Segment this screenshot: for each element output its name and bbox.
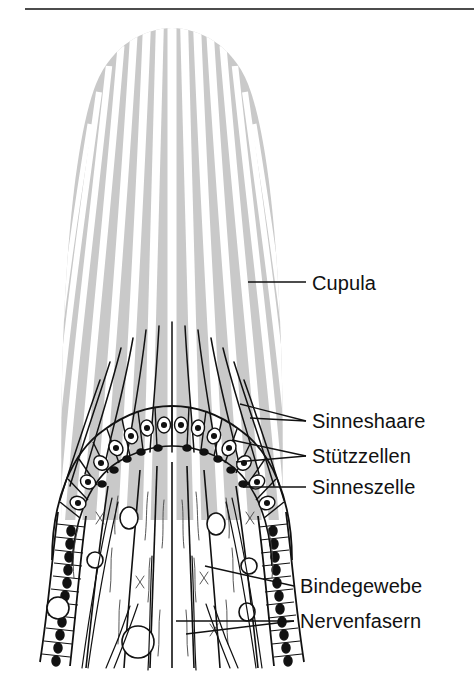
neuromast-diagram: Cupula Sinneshaare Stützzellen Sinneszel… (0, 0, 474, 694)
label-sinneszelle: Sinneszelle (312, 476, 415, 498)
label-nervenfasern: Nervenfasern (300, 610, 421, 632)
label-bindegewebe: Bindegewebe (300, 575, 422, 597)
label-cupula: Cupula (312, 272, 377, 294)
label-sinneshaare: Sinneshaare (312, 410, 425, 432)
label-stuetzzellen: Stützzellen (312, 445, 411, 467)
